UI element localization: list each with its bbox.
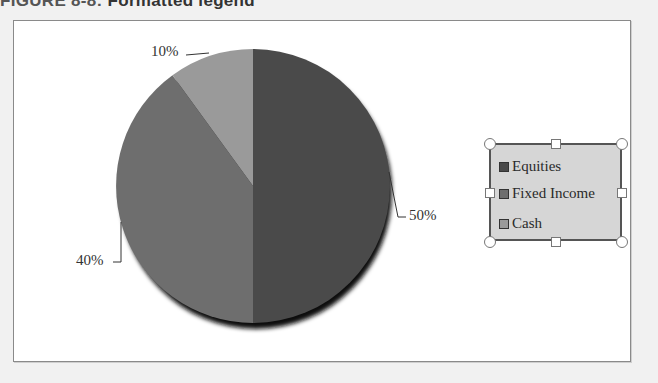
resize-handle-bottom[interactable] — [551, 237, 561, 247]
resize-handle-bottom-right[interactable] — [616, 236, 628, 248]
legend-item-cash[interactable]: Cash — [499, 215, 542, 232]
legend-item-equities[interactable]: Equities — [499, 158, 561, 175]
resize-handle-right[interactable] — [617, 188, 627, 198]
resize-handle-bottom-left[interactable] — [484, 236, 496, 248]
resize-handle-left[interactable] — [485, 188, 495, 198]
legend-label-equities: Equities — [512, 158, 561, 175]
legend-item-fixed-income[interactable]: Fixed Income — [499, 185, 595, 202]
leader-line-40 — [113, 222, 121, 262]
leader-line-10 — [186, 53, 209, 55]
data-label-fixed-income[interactable]: 40% — [76, 252, 104, 269]
legend-label-fixed-income: Fixed Income — [512, 185, 595, 202]
data-label-cash[interactable]: 10% — [151, 43, 179, 60]
resize-handle-top[interactable] — [551, 139, 561, 149]
legend[interactable]: Equities Fixed Income Cash — [489, 143, 622, 241]
data-label-equities[interactable]: 50% — [409, 207, 437, 224]
legend-swatch-cash — [499, 219, 509, 229]
legend-label-cash: Cash — [512, 215, 542, 232]
legend-swatch-fixed-income — [499, 189, 509, 199]
resize-handle-top-right[interactable] — [616, 138, 628, 150]
resize-handle-top-left[interactable] — [484, 138, 496, 150]
legend-swatch-equities — [499, 162, 509, 172]
pie-slice-equities[interactable] — [253, 49, 390, 323]
